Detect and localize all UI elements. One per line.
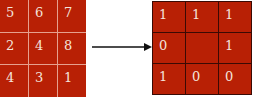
cell-value: 6 [35,5,43,20]
output-cell: 1 [153,64,185,94]
cell-value: 0 [192,69,200,84]
output-cell: 1 [186,2,218,32]
cell-value: 0 [225,69,233,84]
cell-value: 4 [35,38,43,53]
output-cell: 1 [219,2,251,32]
cell-value: 5 [6,5,14,20]
output-cell: 0 [153,33,185,63]
output-cell: 0 [186,64,218,94]
cell-value: 1 [225,38,233,53]
input-cell: 7 [58,0,86,32]
cell-value: 7 [64,5,72,20]
arrow-right-icon [92,42,152,52]
input-cell: 8 [58,33,86,65]
cell-value: 1 [225,7,233,22]
output-cell: 1 [219,33,251,63]
input-cell: 6 [29,0,57,32]
cell-value: 0 [159,38,167,53]
input-cell: 2 [0,33,28,65]
output-cell-center [186,33,218,63]
output-grid: 1 1 1 0 1 1 0 0 [152,1,252,95]
cell-value: 3 [35,70,43,85]
input-cell: 4 [0,65,28,97]
input-cell: 3 [29,65,57,97]
cell-value: 1 [159,7,167,22]
input-cell: 5 [0,0,28,32]
cell-value: 8 [64,38,72,53]
output-cell: 0 [219,64,251,94]
input-cell-center: 4 [29,33,57,65]
input-grid: 5 6 7 2 4 8 4 3 1 [0,0,86,97]
cell-value: 4 [6,70,14,85]
cell-value: 2 [6,38,14,53]
output-cell: 1 [153,2,185,32]
input-cell: 1 [58,65,86,97]
cell-value: 1 [159,69,167,84]
cell-value: 1 [192,7,200,22]
cell-value: 1 [64,70,72,85]
